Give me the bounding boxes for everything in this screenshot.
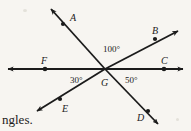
point-label-c: C (161, 56, 168, 66)
point-dot-E (58, 97, 62, 101)
vertex-label-g: G (101, 78, 108, 88)
point-label-f: F (41, 56, 47, 66)
point-dot-F (43, 67, 48, 72)
point-dot-C (162, 67, 167, 72)
geometry-figure-screenshot: A B C D E F G 100° 30° 50° ngles. (0, 0, 191, 131)
caption-text: ngles. (2, 113, 33, 126)
point-dot-D (146, 109, 150, 113)
point-label-b: B (152, 26, 158, 36)
point-label-a: A (70, 13, 76, 23)
angle-label-lower-right: 50° (125, 76, 138, 85)
angle-label-top: 100° (103, 45, 120, 54)
point-dot-A (61, 22, 65, 26)
angle-label-lower-left: 30° (70, 76, 83, 85)
point-dot-B (153, 37, 157, 41)
point-label-d: D (137, 113, 144, 123)
point-label-e: E (62, 104, 68, 114)
